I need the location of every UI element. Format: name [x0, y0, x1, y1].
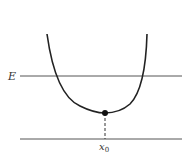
- x0-label: x0: [99, 141, 109, 154]
- minimum-point: [102, 110, 108, 116]
- x0-label-sub: 0: [105, 146, 109, 154]
- energy-label: E: [7, 70, 16, 83]
- potential-curve: [47, 34, 147, 113]
- potential-well-diagram: E x0: [0, 0, 196, 159]
